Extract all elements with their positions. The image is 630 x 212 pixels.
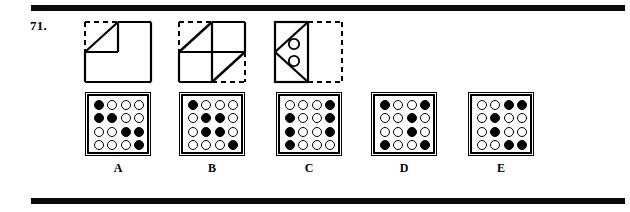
dot-filled <box>380 100 390 110</box>
dot-open <box>107 127 117 137</box>
option-e-grid <box>475 98 529 152</box>
dot-filled <box>517 100 527 110</box>
figure-1-graphic <box>83 18 155 86</box>
dot-open <box>298 140 308 150</box>
dot-open <box>517 113 527 123</box>
dot-filled <box>325 127 335 137</box>
dot-filled <box>420 100 430 110</box>
answer-option-b[interactable]: B <box>177 94 247 174</box>
dot-open <box>312 140 322 150</box>
dot-open <box>298 127 308 137</box>
dot-open <box>393 127 403 137</box>
dot-filled <box>285 140 295 150</box>
dot-open <box>94 140 104 150</box>
dot-open <box>312 113 322 123</box>
dot-open <box>188 113 198 123</box>
option-d-box[interactable] <box>373 94 435 154</box>
bottom-rule <box>31 198 625 204</box>
dot-filled <box>215 127 225 137</box>
dot-open <box>490 140 500 150</box>
dot-filled <box>201 113 211 123</box>
problem-figure-1 <box>83 18 155 86</box>
option-b-box[interactable] <box>181 94 243 154</box>
problem-figure-2 <box>177 18 249 86</box>
dot-open <box>380 113 390 123</box>
dot-open <box>504 127 514 137</box>
dot-filled <box>285 127 295 137</box>
dot-filled <box>188 100 198 110</box>
dot-filled <box>201 127 211 137</box>
dot-open <box>201 100 211 110</box>
dot-open <box>121 113 131 123</box>
answer-option-c[interactable]: C <box>274 94 344 174</box>
dot-open <box>228 113 238 123</box>
dot-open <box>477 100 487 110</box>
dot-filled <box>490 113 500 123</box>
dot-open <box>201 140 211 150</box>
dot-open <box>107 100 117 110</box>
dot-filled <box>228 140 238 150</box>
dot-open <box>490 100 500 110</box>
option-a-grid <box>92 98 146 152</box>
dot-open <box>504 113 514 123</box>
dot-filled <box>380 140 390 150</box>
dot-filled <box>94 100 104 110</box>
dot-open <box>407 100 417 110</box>
option-a-box[interactable] <box>87 94 149 154</box>
answer-option-a[interactable]: A <box>83 94 153 174</box>
option-d-grid <box>378 98 432 152</box>
dot-open <box>517 127 527 137</box>
dot-open <box>107 140 117 150</box>
dot-open <box>477 127 487 137</box>
dot-open <box>188 127 198 137</box>
dot-open <box>228 100 238 110</box>
dot-filled <box>420 140 430 150</box>
dot-filled <box>407 113 417 123</box>
answer-option-e[interactable]: E <box>466 94 536 174</box>
dot-open <box>312 100 322 110</box>
dot-open <box>420 113 430 123</box>
figure-2-graphic <box>177 18 249 86</box>
dot-filled <box>325 100 335 110</box>
dot-filled <box>490 127 500 137</box>
dot-open <box>393 140 403 150</box>
dot-open <box>285 100 295 110</box>
dot-open <box>134 100 144 110</box>
answer-option-d[interactable]: D <box>369 94 439 174</box>
option-b-grid <box>186 98 240 152</box>
option-d-label: D <box>369 162 439 174</box>
dot-filled <box>504 100 514 110</box>
dot-filled <box>504 140 514 150</box>
answer-options-row: A B C D E <box>0 94 630 194</box>
dot-open <box>477 140 487 150</box>
dot-open <box>215 140 225 150</box>
dot-filled <box>94 113 104 123</box>
option-c-box[interactable] <box>278 94 340 154</box>
worksheet-page: 71. <box>0 0 630 212</box>
dot-open <box>325 140 335 150</box>
option-e-box[interactable] <box>470 94 532 154</box>
option-c-label: C <box>274 162 344 174</box>
dot-open <box>188 140 198 150</box>
dot-open <box>94 127 104 137</box>
problem-figure-3 <box>272 18 348 86</box>
dot-open <box>121 100 131 110</box>
dot-filled <box>325 113 335 123</box>
dot-open <box>215 100 225 110</box>
dot-open <box>407 140 417 150</box>
dot-filled <box>215 113 225 123</box>
option-a-label: A <box>83 162 153 174</box>
dot-open <box>312 127 322 137</box>
dot-open <box>228 127 238 137</box>
option-e-label: E <box>466 162 536 174</box>
option-b-label: B <box>177 162 247 174</box>
dot-filled <box>107 113 117 123</box>
dot-filled <box>121 127 131 137</box>
dot-open <box>121 140 131 150</box>
dot-open <box>393 113 403 123</box>
dot-open <box>477 113 487 123</box>
option-c-grid <box>283 98 337 152</box>
dot-open <box>393 100 403 110</box>
dot-filled <box>134 140 144 150</box>
dot-open <box>298 100 308 110</box>
